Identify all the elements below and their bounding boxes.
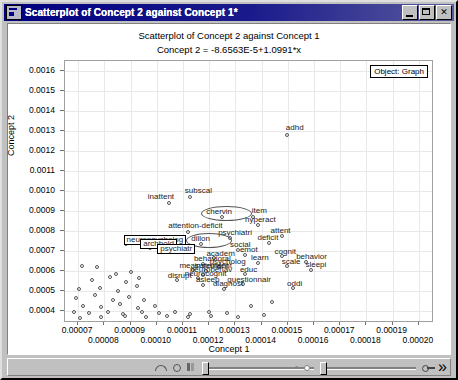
data-point: [167, 201, 171, 205]
x-tick-label: 0.00013: [215, 326, 253, 334]
data-point: [225, 311, 229, 315]
point-label: item: [252, 207, 267, 215]
data-point: [108, 275, 112, 279]
gridline-horizontal: [65, 191, 432, 192]
data-point: [127, 295, 131, 299]
data-point: [81, 304, 85, 308]
legend-box[interactable]: Object: Graph: [370, 65, 428, 78]
point-label: subscal: [185, 187, 212, 195]
pan-slider-thumb[interactable]: [320, 362, 327, 375]
data-point: [173, 310, 177, 314]
y-tick-label: 0.0016: [11, 66, 55, 74]
y-tick-label: 0.0008: [11, 226, 55, 234]
status-bar: »: [7, 358, 451, 376]
y-tick-label: 0.0004: [11, 306, 55, 314]
zoom-slider[interactable]: [202, 362, 314, 373]
point-label: dillon: [191, 235, 210, 243]
data-point: [285, 133, 289, 137]
x-tick-label: 0.00010: [137, 336, 175, 344]
gridline-horizontal: [65, 171, 432, 172]
point-label: adhd: [286, 124, 304, 132]
data-point: [118, 302, 122, 306]
x-tick-label: 0.00012: [189, 336, 227, 344]
data-point: [99, 305, 103, 309]
key-icon[interactable]: [422, 362, 435, 372]
circle-icon[interactable]: [170, 361, 183, 373]
gridline-vertical: [419, 61, 420, 321]
y-tick-label: 0.0012: [11, 146, 55, 154]
x-tick-label: 0.00019: [373, 326, 411, 334]
gridline-vertical: [393, 61, 394, 321]
x-tick-label: 0.00017: [320, 326, 358, 334]
data-point: [78, 316, 82, 320]
close-icon[interactable]: ✕: [436, 5, 452, 20]
data-point: [90, 278, 94, 282]
gridline-vertical: [104, 61, 105, 321]
bars-icon[interactable]: [186, 361, 199, 373]
x-tick-label: 0.00016: [294, 336, 332, 344]
chart-window-icon: [6, 5, 22, 20]
data-point: [116, 289, 120, 293]
zoom-slider-thumb[interactable]: [202, 362, 209, 375]
maximize-button[interactable]: [419, 5, 435, 20]
point-label: scale: [282, 258, 301, 266]
gridline-vertical: [78, 61, 79, 321]
point-label: sleepi: [305, 261, 326, 269]
y-tick-label: 0.0013: [11, 126, 55, 134]
data-point: [153, 304, 157, 308]
data-point: [80, 264, 84, 268]
point-label: cognit: [275, 248, 296, 256]
x-tick-label: 0.00018: [346, 336, 384, 344]
gridline-vertical: [157, 61, 158, 321]
gridline-vertical: [131, 61, 132, 321]
gridline-vertical: [314, 61, 315, 321]
pan-slider[interactable]: [320, 362, 416, 373]
gridline-vertical: [366, 61, 367, 321]
y-tick-label: 0.0005: [11, 286, 55, 294]
status-end-group: »: [422, 358, 447, 376]
zoom-slider-dot-a: [295, 366, 298, 369]
data-point: [209, 314, 213, 318]
chart-title: Scatterplot of Concept 2 against Concept…: [8, 30, 450, 41]
x-tick-label: 0.00009: [111, 326, 149, 334]
y-tick-label: 0.0010: [11, 186, 55, 194]
data-point: [129, 270, 133, 274]
point-label: chervin: [206, 208, 232, 216]
data-point: [165, 314, 169, 318]
resize-grip-icon[interactable]: »: [438, 358, 447, 376]
title-bar[interactable]: Scatterplot of Concept 2 against Concept…: [4, 4, 454, 21]
window-title: Scatterplot of Concept 2 against Concept…: [25, 7, 402, 18]
data-point: [93, 293, 97, 297]
data-point: [87, 311, 91, 315]
data-point: [144, 315, 148, 319]
gridline-horizontal: [65, 91, 432, 92]
y-tick-label: 0.0009: [11, 206, 55, 214]
point-label: hyperact: [245, 216, 276, 224]
gridline-horizontal: [65, 291, 432, 292]
data-point: [95, 265, 99, 269]
chart-canvas: Scatterplot of Concept 2 against Concept…: [7, 23, 451, 355]
data-point: [111, 298, 115, 302]
application-window: Scatterplot of Concept 2 against Concept…: [0, 0, 458, 380]
data-point: [188, 195, 192, 199]
curve-icon[interactable]: [154, 361, 167, 373]
x-tick-label: 0.00011: [163, 326, 201, 334]
minimize-button[interactable]: [402, 5, 418, 20]
data-point: [135, 284, 139, 288]
gridline-horizontal: [65, 151, 432, 152]
data-point: [137, 276, 141, 280]
data-point: [114, 272, 118, 276]
y-tick-label: 0.0014: [11, 106, 55, 114]
data-point: [186, 230, 190, 234]
data-point: [99, 315, 103, 319]
point-label: psychiatr: [157, 244, 195, 254]
y-tick-label: 0.0011: [11, 166, 55, 174]
y-tick-label: 0.0007: [11, 246, 55, 254]
close-glyph: ✕: [437, 6, 451, 19]
y-tick-label: 0.0015: [11, 86, 55, 94]
gridline-horizontal: [65, 131, 432, 132]
plot-area[interactable]: adhdsubscalinattentchervinitemhyperactat…: [64, 60, 433, 322]
data-point: [140, 310, 144, 314]
point-label: diagnost: [213, 280, 243, 288]
point-label: disrupt: [168, 272, 192, 280]
